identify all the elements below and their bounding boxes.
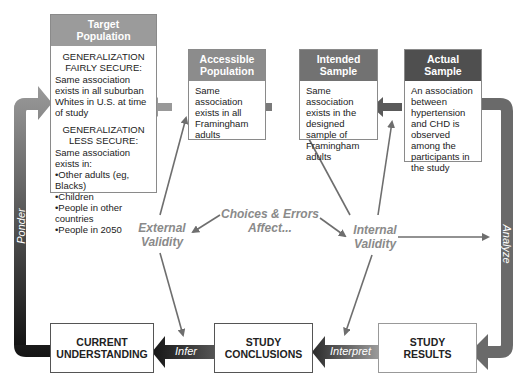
- internal-validity-label: Internal Validity: [345, 223, 405, 251]
- less-secure-heading: GENERALIZATION LESS SECURE:: [55, 124, 152, 146]
- actual-sample-box: Actual Sample An association between hyp…: [404, 49, 482, 162]
- target-population-header: Target Population: [51, 15, 156, 46]
- label-line: External: [132, 221, 192, 235]
- box-line: RESULTS: [403, 348, 451, 360]
- actual-sample-text: An association between hypertension and …: [405, 81, 481, 177]
- accessible-population-box: Accessible Population Same association e…: [188, 49, 266, 140]
- header-line: Sample: [407, 65, 479, 77]
- heading-line: GENERALIZATION: [55, 124, 152, 135]
- label-line: Choices & Errors: [215, 207, 325, 221]
- secure-text: Same association exists in all suburban …: [55, 74, 152, 118]
- box-line: CONCLUSIONS: [225, 348, 303, 360]
- heading-line: FAIRLY SECURE:: [55, 62, 152, 73]
- external-validity-label: External Validity: [132, 221, 192, 249]
- label-line: Affect...: [215, 221, 325, 235]
- less-secure-text: Same association exists in:: [55, 147, 152, 169]
- header-line: Accessible: [191, 53, 263, 65]
- target-population-box: Target Population GENERALIZATION FAIRLY …: [50, 14, 157, 193]
- list-item: Children: [55, 191, 152, 202]
- label-line: Validity: [132, 235, 192, 249]
- box-line: STUDY: [225, 336, 303, 348]
- accessible-population-text: Same association exists in all Framingha…: [189, 81, 265, 144]
- accessible-population-header: Accessible Population: [189, 50, 265, 81]
- interpret-label: Interpret: [330, 345, 371, 357]
- header-line: Population: [53, 30, 154, 42]
- study-results-box: STUDY RESULTS: [378, 323, 477, 373]
- intended-sample-header: Intended Sample: [300, 50, 377, 81]
- secure-heading: GENERALIZATION FAIRLY SECURE:: [55, 51, 152, 73]
- current-understanding-box: CURRENT UNDERSTANDING: [50, 323, 154, 373]
- intended-sample-text: Same association exists in the designed …: [300, 81, 377, 166]
- actual-sample-header: Actual Sample: [405, 50, 481, 81]
- box-line: CURRENT: [56, 336, 147, 348]
- analyze-label: Analyze: [501, 219, 513, 269]
- ponder-label: Ponder: [15, 201, 27, 251]
- box-line: STUDY: [403, 336, 451, 348]
- header-line: Target: [53, 18, 154, 30]
- target-population-body: GENERALIZATION FAIRLY SECURE: Same assoc…: [51, 46, 156, 238]
- label-line: Internal: [345, 223, 405, 237]
- choices-errors-label: Choices & Errors Affect...: [215, 207, 325, 235]
- heading-line: GENERALIZATION: [55, 51, 152, 62]
- intended-sample-box: Intended Sample Same association exists …: [299, 49, 378, 140]
- header-line: Actual: [407, 53, 479, 65]
- box-line: UNDERSTANDING: [56, 348, 147, 360]
- study-conclusions-box: STUDY CONCLUSIONS: [214, 323, 313, 373]
- heading-line: LESS SECURE:: [55, 135, 152, 146]
- list-item: Other adults (eg, Blacks): [55, 169, 152, 191]
- header-line: Sample: [302, 65, 375, 77]
- header-line: Population: [191, 65, 263, 77]
- header-line: Intended: [302, 53, 375, 65]
- label-line: Validity: [345, 237, 405, 251]
- infer-label: Infer: [175, 345, 197, 357]
